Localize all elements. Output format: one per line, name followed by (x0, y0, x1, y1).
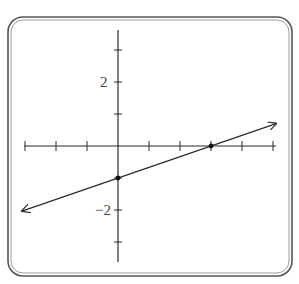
y-tick-label-2: 2 (100, 74, 108, 90)
coordinate-graph: 2 −2 (0, 0, 299, 284)
data-point (116, 176, 121, 181)
y-tick-label-neg2: −2 (95, 202, 111, 218)
graph-line (22, 124, 276, 211)
data-point (209, 144, 214, 149)
